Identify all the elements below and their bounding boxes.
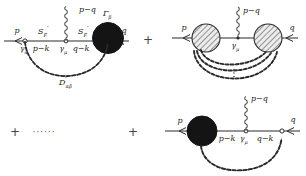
plus-operator-2: +: [10, 125, 20, 139]
label-middle-vertex-sub: μ: [245, 139, 248, 146]
label-middle-vertex: γ μ: [240, 134, 248, 146]
label-out-momentum: q: [289, 23, 294, 32]
internal-photon-arc-core: [201, 139, 282, 170]
label-blob-sub: β: [108, 14, 112, 21]
hatched-blob-right: [254, 24, 282, 52]
label-left-internal-momentum: p−k: [219, 134, 236, 143]
label-right-internal-momentum: q−k: [257, 134, 274, 143]
label-photon-momentum: p−q: [79, 5, 96, 14]
label-middle-vertex: γ μ: [60, 44, 68, 56]
label-middle-vertex: γ μ: [232, 41, 240, 53]
label-in-momentum: p: [14, 26, 19, 35]
label-left-propagator-prime: ′: [47, 25, 49, 33]
label-in-momentum: p: [177, 116, 182, 125]
label-middle-vertex-sub: μ: [64, 49, 67, 56]
plus-operator-3: +: [128, 125, 138, 139]
label-left-propagator: S F ′: [38, 25, 49, 38]
internal-photon-arc: [201, 139, 282, 170]
label-left-internal-momentum: p−k: [33, 44, 50, 53]
vertex-point-right: [280, 129, 284, 133]
external-photon-line: [245, 97, 248, 132]
label-blob: Γ β: [102, 9, 112, 21]
label-photon-propagator: D ′ αβ: [58, 76, 72, 90]
external-photon-line: [237, 7, 240, 38]
vertex-blob-gamma-beta: [93, 23, 124, 54]
label-in-momentum: p: [181, 23, 186, 32]
ellipsis-operator: ······: [32, 127, 55, 137]
photon-arc-1: [201, 50, 266, 65]
photon-arc-2: [197, 51, 271, 71]
term-3-diagram: p q p−q p−k q−k γ μ: [165, 94, 300, 170]
feynman-diagram-figure: p q p−q S F ′ S F ′ p−k q−k γ α γ μ Γ β …: [0, 0, 306, 176]
vertical-ellipsis-dots: [233, 69, 235, 78]
photon-arc-group: [194, 50, 277, 79]
external-photon-line: [65, 7, 68, 42]
label-middle-vertex-sub: μ: [236, 46, 239, 53]
label-left-vertex: γ α: [20, 44, 29, 55]
plus-operator-1: +: [143, 33, 153, 47]
label-photon-momentum: p−q: [243, 6, 260, 15]
label-right-internal-momentum: q−k: [73, 44, 90, 53]
self-energy-blob: [187, 116, 217, 146]
label-out-momentum: q: [290, 115, 295, 124]
term-1-diagram: p q p−q S F ′ S F ′ p−k q−k γ α γ μ Γ β …: [4, 5, 129, 90]
label-out-momentum: q: [121, 26, 126, 35]
vertex-point-mu: [236, 36, 239, 39]
term-2-diagram: p q p−q γ μ: [172, 6, 298, 79]
label-right-propagator: S F ′: [78, 25, 89, 38]
hatched-blob-left: [192, 24, 220, 52]
label-photon-propagator-sub: αβ: [66, 83, 72, 90]
label-photon-momentum: p−q: [251, 94, 268, 103]
label-right-propagator-prime: ′: [87, 25, 89, 33]
